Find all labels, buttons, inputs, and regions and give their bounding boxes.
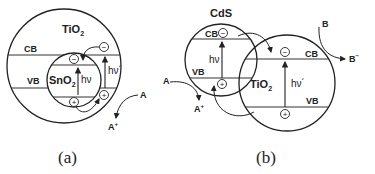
photocatalyst-diagram: TiO2 CB VB SnO2 hν hν´ − − + + A A+ (a) bbox=[0, 0, 375, 174]
reactant-a-b: A bbox=[163, 76, 170, 86]
reactant-b: B bbox=[322, 19, 329, 29]
svg-text:−: − bbox=[283, 48, 288, 57]
tio2-label-a: TiO2 bbox=[62, 23, 84, 37]
hole-icon: + bbox=[281, 110, 290, 120]
hv-cds-label: hν bbox=[209, 54, 220, 65]
hv-outer-label: hν´ bbox=[108, 65, 122, 76]
hv-tio2-label: hν´ bbox=[291, 78, 305, 89]
hole-icon: + bbox=[100, 91, 109, 101]
electron-icon: − bbox=[281, 48, 290, 58]
electron-icon: − bbox=[70, 55, 79, 65]
cb-label-cds: CB bbox=[205, 29, 218, 39]
panel-b: CdS CB VB TiO2 CB VB hν hν´ − + − + A A+… bbox=[163, 7, 360, 167]
product-a-plus-b: A+ bbox=[194, 103, 205, 114]
panel-a: TiO2 CB VB SnO2 hν hν´ − − + + A A+ (a) bbox=[0, 9, 147, 167]
svg-text:−: − bbox=[221, 29, 226, 38]
vb-label-tio2: VB bbox=[306, 96, 319, 106]
svg-text:+: + bbox=[220, 80, 225, 89]
electron-icon: − bbox=[219, 29, 228, 39]
svg-text:+: + bbox=[283, 110, 288, 119]
cds-label: CdS bbox=[210, 7, 232, 19]
cb-label-a: CB bbox=[24, 44, 37, 54]
vb-label-cds: VB bbox=[192, 67, 205, 77]
caption-a: (a) bbox=[58, 148, 77, 167]
svg-text:−: − bbox=[72, 55, 77, 64]
hv-inner-label: hν bbox=[81, 74, 92, 85]
svg-text:+: + bbox=[72, 98, 77, 107]
cb-label-tio2: CB bbox=[305, 49, 318, 59]
product-b-minus: B− bbox=[349, 53, 360, 64]
product-a-plus: A+ bbox=[108, 121, 119, 132]
hole-icon: + bbox=[70, 98, 79, 108]
svg-text:−: − bbox=[102, 43, 107, 52]
hole-icon: + bbox=[218, 80, 227, 90]
svg-text:+: + bbox=[102, 91, 107, 100]
vb-label-a: VB bbox=[27, 76, 40, 86]
reactant-a: A bbox=[140, 90, 147, 100]
electron-icon: − bbox=[100, 43, 109, 53]
caption-b: (b) bbox=[256, 148, 276, 167]
